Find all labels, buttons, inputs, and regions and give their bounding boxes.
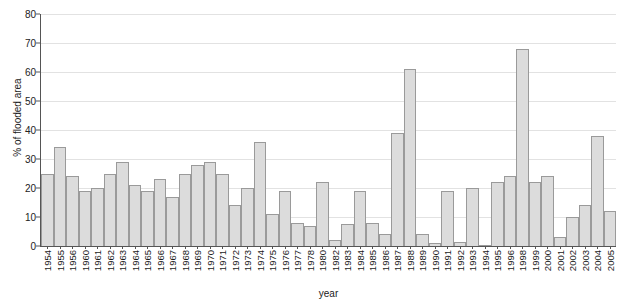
plot-area [41, 14, 616, 246]
bar [466, 188, 479, 246]
x-axis-tick-mark [522, 246, 523, 249]
bar [341, 224, 354, 246]
bar [491, 182, 504, 246]
x-axis-tick-label: 1960 [79, 250, 90, 271]
bar [129, 185, 142, 246]
bar [304, 226, 317, 246]
x-axis-tick-label: 1967 [167, 250, 178, 271]
x-axis-tick-label: 1993 [467, 250, 478, 271]
x-axis-tick-mark [547, 246, 548, 249]
x-axis-tick-mark [597, 246, 598, 249]
x-axis-tick-label: 1975 [267, 250, 278, 271]
x-axis-tick: 1967 [166, 248, 179, 288]
x-axis-tick-mark [185, 246, 186, 249]
x-axis-tick-mark [460, 246, 461, 249]
x-axis-tick-label: 1982 [329, 250, 340, 271]
bar [604, 211, 617, 246]
x-axis-tick-label: 1984 [354, 250, 365, 271]
x-axis-tick-label: 2000 [542, 250, 553, 271]
x-axis-tick: 1977 [291, 248, 304, 288]
x-axis-tick-mark [372, 246, 373, 249]
x-axis-tick-label: 1965 [142, 250, 153, 271]
x-axis-tick-label: 1973 [242, 250, 253, 271]
x-axis-tick-mark [272, 246, 273, 249]
x-axis-tick-mark [560, 246, 561, 249]
bar [566, 217, 579, 246]
x-axis-tick-label: 1985 [367, 250, 378, 271]
x-axis-tick: 1983 [341, 248, 354, 288]
x-axis-tick: 1986 [379, 248, 392, 288]
x-axis-tick-mark [385, 246, 386, 249]
bar [529, 182, 542, 246]
x-axis-tick-mark [422, 246, 423, 249]
bar [404, 69, 417, 246]
x-axis-tick-mark [535, 246, 536, 249]
bar [579, 205, 592, 246]
x-axis-tick-label: 2004 [592, 250, 603, 271]
x-axis-tick-mark [197, 246, 198, 249]
x-axis-tick: 1993 [466, 248, 479, 288]
x-axis-tick-mark [97, 246, 98, 249]
bar [591, 136, 604, 246]
x-axis-tick-label: 1974 [254, 250, 265, 271]
x-axis-tick-mark [47, 246, 48, 249]
bar [354, 191, 367, 246]
x-axis-tick-label: 1980 [317, 250, 328, 271]
x-axis-tick-label: 1991 [442, 250, 453, 271]
x-axis-tick-label: 1966 [154, 250, 165, 271]
x-axis-tick: 1975 [266, 248, 279, 288]
x-axis-tick-label: 1998 [517, 250, 528, 271]
x-axis-tick-mark [285, 246, 286, 249]
bar [66, 176, 79, 246]
x-axis-tick-label: 1964 [129, 250, 140, 271]
x-axis-tick-mark [397, 246, 398, 249]
x-axis-tick-label: 1987 [392, 250, 403, 271]
x-axis-tick: 1970 [204, 248, 217, 288]
y-axis-tick-label: 40 [6, 125, 36, 136]
y-axis-ticks: 01020304050607080 [0, 0, 36, 300]
y-axis-tick-label: 60 [6, 67, 36, 78]
x-axis-tick-mark [135, 246, 136, 249]
x-axis-tick-label: 1977 [292, 250, 303, 271]
x-axis-tick-mark [447, 246, 448, 249]
x-axis-tick-label: 2002 [567, 250, 578, 271]
x-axis-tick-mark [485, 246, 486, 249]
x-axis-tick-label: 1983 [342, 250, 353, 271]
x-axis-tick: 1966 [154, 248, 167, 288]
y-axis-tick-label: 0 [6, 241, 36, 252]
x-axis-tick-label: 1971 [217, 250, 228, 271]
x-axis-tick: 1972 [229, 248, 242, 288]
x-axis-tick: 1954 [41, 248, 54, 288]
bar [266, 214, 279, 246]
x-axis-tick-mark [235, 246, 236, 249]
x-axis-tick: 1989 [416, 248, 429, 288]
x-axis-tick: 1973 [241, 248, 254, 288]
bar [104, 174, 117, 247]
x-axis-tick-label: 1968 [179, 250, 190, 271]
x-axis-tick: 2001 [554, 248, 567, 288]
x-axis-tick-mark [360, 246, 361, 249]
x-axis-tick-mark [572, 246, 573, 249]
bar [91, 188, 104, 246]
x-axis-tick-mark [160, 246, 161, 249]
x-axis-tick: 1999 [529, 248, 542, 288]
y-axis-tick-label: 30 [6, 154, 36, 165]
x-axis-tick-label: 1996 [504, 250, 515, 271]
x-axis-tick: 2000 [541, 248, 554, 288]
bar [204, 162, 217, 246]
x-axis-tick: 1960 [79, 248, 92, 288]
bar [229, 205, 242, 246]
x-axis-tick-label: 1969 [192, 250, 203, 271]
x-axis-ticks: 1954195519561960196119621963196419651966… [41, 248, 616, 288]
bar [441, 191, 454, 246]
bar [191, 165, 204, 246]
bar [316, 182, 329, 246]
x-axis-tick-mark [510, 246, 511, 249]
x-axis-label: year [41, 288, 616, 299]
x-axis-tick: 1990 [429, 248, 442, 288]
x-axis-line [40, 246, 616, 247]
x-axis-tick: 1996 [504, 248, 517, 288]
x-axis-tick-mark [310, 246, 311, 249]
x-axis-tick-label: 1989 [417, 250, 428, 271]
x-axis-tick-label: 1956 [67, 250, 78, 271]
